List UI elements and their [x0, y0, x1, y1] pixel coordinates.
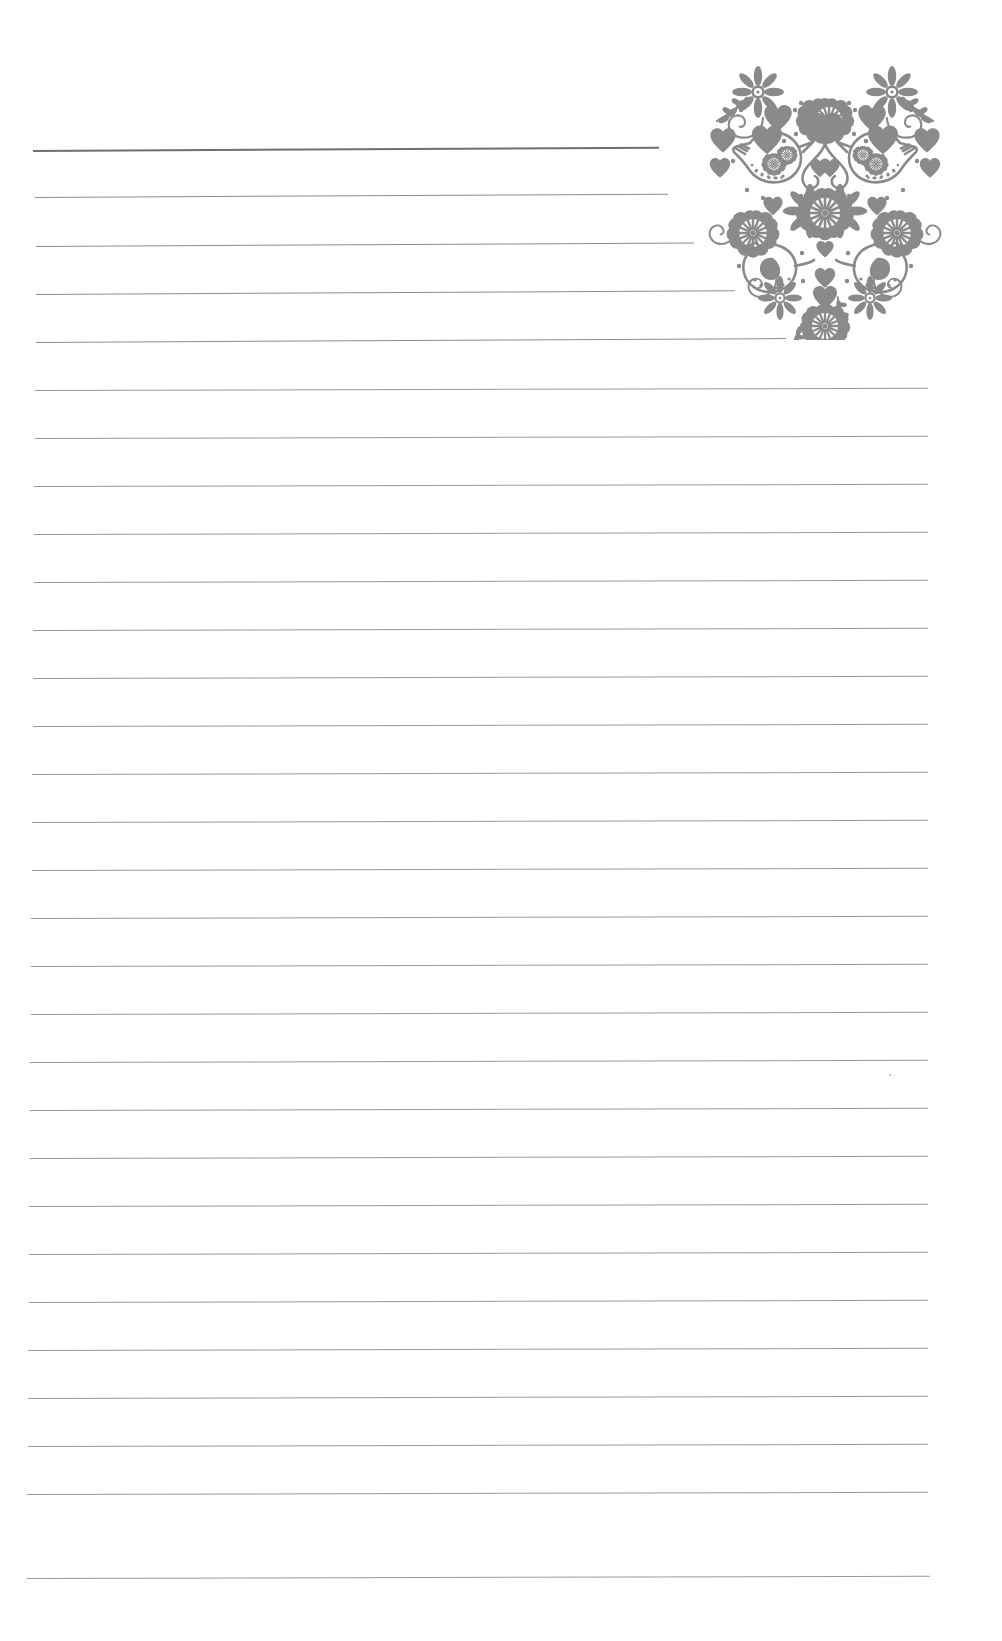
rule-line	[31, 964, 928, 967]
rule-line	[29, 1204, 928, 1207]
scan-speck	[889, 1074, 891, 1076]
rule-line	[28, 1396, 928, 1399]
rule-line	[36, 243, 694, 247]
rule-line	[31, 1012, 928, 1015]
rule-line	[33, 628, 928, 631]
rule-line	[32, 820, 928, 823]
rule-line	[29, 1300, 928, 1303]
rule-line	[32, 772, 928, 775]
rule-line	[28, 1348, 928, 1351]
rule-line	[32, 868, 928, 871]
rule-line	[29, 1252, 928, 1255]
rule-line	[31, 916, 928, 919]
rule-line	[35, 194, 668, 198]
notepaper-page	[0, 0, 1002, 1641]
rule-line	[30, 1156, 928, 1159]
rule-line	[27, 1576, 930, 1579]
rule-line	[33, 147, 659, 152]
rule-line	[30, 1108, 928, 1111]
rule-line	[33, 724, 928, 727]
rule-line	[36, 338, 786, 343]
rule-line	[30, 1060, 928, 1063]
rule-line	[33, 676, 928, 679]
rule-line	[35, 436, 928, 439]
rule-line	[36, 290, 735, 295]
rule-line	[34, 484, 928, 487]
rule-line	[28, 1444, 928, 1447]
rule-line	[34, 532, 928, 535]
rule-line	[35, 388, 928, 391]
ruled-lines-group	[0, 0, 1002, 1641]
rule-line	[27, 1492, 928, 1495]
rule-line	[34, 580, 928, 583]
